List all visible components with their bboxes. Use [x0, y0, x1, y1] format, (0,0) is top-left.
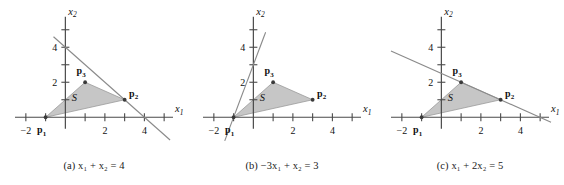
panel-c-shaded-region	[422, 82, 501, 117]
point-marker-p1	[232, 115, 236, 119]
region-S	[234, 82, 313, 117]
panel-c-axes	[391, 17, 549, 129]
x-tick-label-4: 4	[142, 125, 147, 136]
y-tick-label-2: 2	[52, 77, 57, 88]
panel-a-x-axis-label: x1	[174, 103, 183, 117]
y-tick-label-4: 4	[52, 42, 57, 53]
x-tick-label--2: −2	[21, 125, 32, 136]
panel-c: 24−2 24 p1p2p3 S x1 x2 (c) x₁ + 2x₂ = 5	[376, 0, 564, 185]
figure-three-panel-feasible-regions: 24−2 24 p1p2p3 S x1 x2 (a) x₁ + x₂ = 4	[0, 0, 564, 185]
point-label-p1: p1	[413, 124, 423, 137]
panel-a-caption-text: (a) x₁ + x₂ = 4	[63, 160, 124, 171]
y-tick-label-2: 2	[428, 77, 433, 88]
point-marker-p2	[311, 98, 315, 102]
panel-b-x-axis-label: x1	[362, 103, 371, 117]
point-marker-p3	[83, 80, 87, 84]
point-label-p2: p2	[317, 88, 327, 101]
y-tick-label-2: 2	[240, 77, 245, 88]
panel-b-y-axis-label: x2	[255, 6, 265, 20]
y-tick-label-4: 4	[428, 42, 433, 53]
panel-c-constraint-line	[391, 51, 551, 122]
region-S	[422, 82, 501, 117]
point-label-p3: p3	[265, 65, 275, 78]
point-marker-p1	[44, 115, 48, 119]
panel-c-x-axis-label: x1	[550, 103, 559, 117]
point-label-p3: p3	[453, 65, 463, 78]
panel-c-caption-text: (c) x₁ + 2x₂ = 5	[437, 160, 504, 171]
point-label-p2: p2	[505, 88, 515, 101]
panel-a-region-label-S: S	[72, 92, 78, 103]
panel-c-region-label-S: S	[448, 92, 454, 103]
line-x1-2x2-5	[391, 51, 551, 122]
panel-b-caption: (b) −3x₁ + x₂ = 3	[188, 160, 376, 171]
panel-c-y-axis-label: x2	[443, 6, 453, 20]
region-S	[46, 82, 125, 117]
x-tick-label--2: −2	[209, 125, 220, 136]
line-x1-x2-4	[54, 37, 171, 140]
panel-a-shaded-region	[46, 82, 125, 117]
point-label-p3: p3	[77, 65, 87, 78]
point-marker-p1	[420, 115, 424, 119]
panel-b-plot: 24−2 24 p1p2p3 S x1 x2	[188, 0, 376, 165]
panel-a-caption: (a) x₁ + x₂ = 4	[0, 160, 188, 171]
point-marker-p3	[459, 80, 463, 84]
panel-b-caption-text: (b) −3x₁ + x₂ = 3	[245, 160, 318, 171]
point-label-p1: p1	[37, 124, 47, 137]
x-tick-label-2: 2	[290, 125, 295, 136]
panel-a: 24−2 24 p1p2p3 S x1 x2 (a) x₁ + x₂ = 4	[0, 0, 188, 185]
panel-a-constraint-line	[54, 37, 171, 140]
panel-b-region-label-S: S	[260, 92, 266, 103]
point-label-p2: p2	[129, 88, 139, 101]
y-tick-label-4: 4	[240, 42, 245, 53]
panel-b-axes	[203, 17, 361, 129]
point-marker-p2	[499, 98, 503, 102]
point-marker-p2	[123, 98, 127, 102]
panel-b-shaded-region	[234, 82, 313, 117]
point-marker-p3	[271, 80, 275, 84]
x-tick-label-4: 4	[330, 125, 335, 136]
panel-a-y-axis-label: x2	[67, 6, 77, 20]
x-tick-label--2: −2	[397, 125, 408, 136]
x-tick-label-4: 4	[518, 125, 523, 136]
x-tick-label-2: 2	[102, 125, 107, 136]
x-tick-label-2: 2	[478, 125, 483, 136]
panel-b: 24−2 24 p1p2p3 S x1 x2 (b) −3x₁ + x₂ = 3	[188, 0, 376, 185]
panel-c-plot: 24−2 24 p1p2p3 S x1 x2	[376, 0, 564, 165]
panel-a-plot: 24−2 24 p1p2p3 S x1 x2	[0, 0, 188, 165]
panel-c-caption: (c) x₁ + 2x₂ = 5	[376, 160, 564, 171]
